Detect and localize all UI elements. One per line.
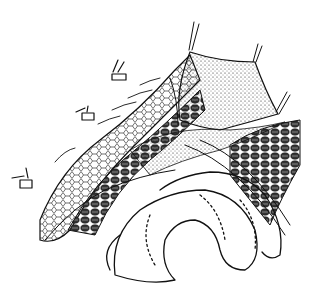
retracted-flap <box>179 52 278 130</box>
stay-suture-icon <box>76 106 94 120</box>
stay-suture-icon <box>12 168 32 188</box>
surgical-illustration <box>0 0 314 289</box>
stay-suture-icon <box>112 60 126 80</box>
